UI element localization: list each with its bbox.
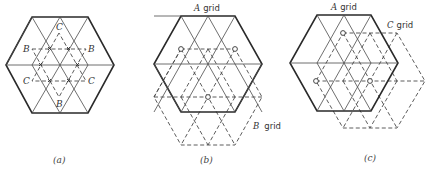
- panel-b: Agrid Bgrid (b): [154, 3, 281, 165]
- label-c-top: C: [56, 22, 63, 32]
- b-site-circle: [179, 47, 184, 52]
- c-site-triangle: [32, 33, 86, 81]
- caption-b: (b): [200, 155, 213, 165]
- label-b-bottom: B: [55, 99, 63, 109]
- label-c-right: C: [88, 76, 95, 86]
- label-b-left: B: [22, 44, 30, 54]
- c-site-circle: [314, 79, 319, 84]
- panel-a: C C C B B B (a): [6, 17, 114, 165]
- caption-a: (a): [53, 155, 66, 165]
- a-grid-label: Agrid: [193, 3, 220, 13]
- panel-c: Agrid Cgrid (c): [290, 2, 425, 163]
- c-grid-label: Cgrid: [387, 20, 413, 30]
- intersection-marks: [39, 47, 79, 82]
- b-site-triangle: [32, 49, 86, 97]
- b-site-circle: [206, 95, 211, 100]
- label-c-left: C: [23, 76, 30, 86]
- b-site-circle: [233, 47, 238, 52]
- hexagonal-grid-figure: C C C B B B (a): [0, 0, 433, 172]
- c-site-circle: [368, 79, 373, 84]
- caption-c: (c): [364, 153, 377, 163]
- b-grid-label: Bgrid: [252, 121, 281, 131]
- a-grid-label: Agrid: [330, 2, 357, 12]
- c-site-circle: [341, 31, 346, 36]
- a-grid: [290, 15, 398, 111]
- label-b-right: B: [87, 44, 95, 54]
